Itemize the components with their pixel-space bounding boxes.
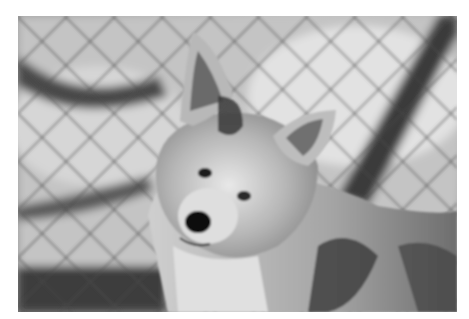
coyote-photo: Black-and-white photograph of a coyote l… [18,16,457,312]
photo-scene [18,16,457,312]
